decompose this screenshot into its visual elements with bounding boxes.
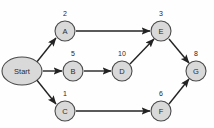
node-a[interactable]: 2 A: [55, 10, 75, 41]
edge-start-a: [36, 38, 56, 63]
node-f-label: F: [159, 107, 164, 116]
node-c-label: C: [62, 107, 68, 116]
node-d-weight: 10: [118, 50, 126, 57]
node-f-weight: 6: [159, 90, 163, 97]
node-e-weight: 3: [159, 10, 163, 17]
node-d-label: D: [119, 67, 125, 76]
node-start-label: Start: [14, 67, 31, 76]
node-g-label: G: [193, 67, 199, 76]
edge-f-g: [169, 79, 189, 104]
node-layer: Start 2 A 5 B 1 C 10 D: [2, 10, 206, 121]
edge-e-g: [169, 39, 189, 63]
node-a-label: A: [62, 27, 67, 36]
node-b[interactable]: 5 B: [63, 50, 83, 81]
node-a-weight: 2: [63, 10, 67, 17]
node-c[interactable]: 1 C: [55, 90, 75, 121]
node-c-weight: 1: [63, 90, 67, 97]
node-f[interactable]: 6 F: [151, 90, 171, 121]
node-e-label: E: [158, 27, 163, 36]
edge-d-e: [130, 39, 154, 64]
activity-network-diagram: Start 2 A 5 B 1 C 10 D: [0, 0, 214, 128]
node-d[interactable]: 10 D: [112, 50, 132, 81]
edge-start-c: [36, 79, 56, 104]
node-start[interactable]: Start: [2, 57, 42, 85]
node-b-weight: 5: [71, 50, 75, 57]
node-g[interactable]: 8 G: [186, 50, 206, 81]
node-e[interactable]: 3 E: [151, 10, 171, 41]
node-g-weight: 8: [194, 50, 198, 57]
node-b-label: B: [70, 67, 75, 76]
